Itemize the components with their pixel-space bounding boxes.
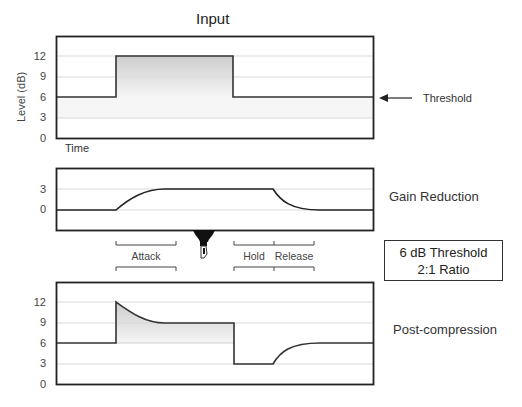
phase-brackets [116, 241, 314, 271]
input-plot [57, 37, 413, 139]
gain-reduction-plot [57, 169, 374, 231]
pointer-hand-icon [193, 230, 215, 258]
arrow-left-icon [379, 94, 388, 102]
diagram-graphics [0, 0, 522, 407]
post-compression-plot [57, 283, 374, 385]
